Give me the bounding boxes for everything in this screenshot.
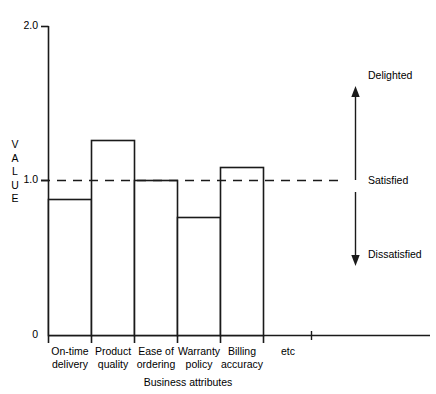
y-axis-title-letter-u: U xyxy=(8,179,22,193)
y-tick-label-2: 2.0 xyxy=(6,20,38,31)
bar-product-quality xyxy=(92,141,135,336)
chart-figure: 2.0 1.0 0 V A L U E On-time delivery Pro… xyxy=(0,0,436,394)
y-axis-title-letter-e: E xyxy=(8,192,22,206)
chart-canvas xyxy=(0,0,436,394)
x-category-line-1: etc xyxy=(244,345,332,358)
bar-series xyxy=(49,141,264,336)
bar-on-time-delivery xyxy=(49,200,92,336)
x-axis-title: Business attributes xyxy=(78,376,298,388)
y-axis-title-letter-a: A xyxy=(8,152,22,166)
x-category-label-etc: etc xyxy=(244,345,332,358)
bar-ease-of-ordering xyxy=(135,181,178,336)
arrow-up-delighted xyxy=(351,86,359,180)
arrow-down-dissatisfied xyxy=(351,192,359,266)
y-axis-title-letter-l: L xyxy=(8,165,22,179)
x-category-line-2: accuracy xyxy=(198,358,286,371)
y-axis-title-letter-v: V xyxy=(8,138,22,152)
bar-billing-accuracy xyxy=(221,168,264,336)
annotation-dissatisfied: Dissatisfied xyxy=(368,248,422,260)
annotation-delighted: Delighted xyxy=(368,69,412,81)
plot-area: 2.0 1.0 0 V A L U E On-time delivery Pro… xyxy=(0,0,436,394)
y-tick-label-0: 0 xyxy=(6,329,38,340)
bar-warranty-policy xyxy=(178,218,221,336)
annotation-satisfied: Satisfied xyxy=(368,174,408,186)
y-axis-title: V A L U E xyxy=(8,138,22,206)
